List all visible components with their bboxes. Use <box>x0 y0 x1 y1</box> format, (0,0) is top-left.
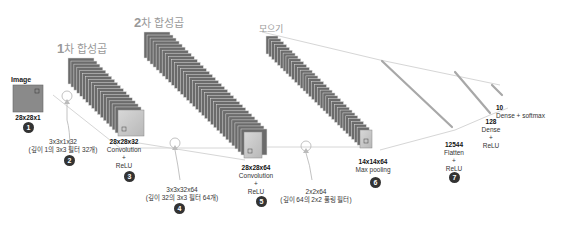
stage-text: 차 합성곱 <box>64 43 107 55</box>
filter1-label: 3x3x1x32 (깊이 1의 3x3 필터 32개) <box>18 138 108 154</box>
pool-shape: 14x14x64 <box>359 158 388 165</box>
flatten-size: 12544 <box>445 141 463 148</box>
dense-10-layer <box>492 85 502 95</box>
step-badge-4: 4 <box>174 203 185 214</box>
plus-sign: + <box>104 154 144 162</box>
dense128-size: 128 <box>486 118 497 125</box>
stage-text: 모으기 <box>259 24 283 34</box>
conv1-output-label: 28x28x32 Convolution + ReLU <box>104 138 144 170</box>
filter2-label: 3x3x32x64 (깊이 32의 3x3 필터 64개) <box>134 186 230 202</box>
pool-feature-stack <box>266 36 372 148</box>
pool-filter-shape: 2x2x64 <box>268 188 364 196</box>
step-badge-3: 3 <box>124 171 135 182</box>
image-title: Image <box>11 76 31 83</box>
filter1-shape: 3x3x1x32 <box>18 138 108 146</box>
step-badge-5: 5 <box>256 196 267 207</box>
conv1-shape: 28x28x32 <box>110 138 139 145</box>
step-badge-2: 2 <box>64 155 75 166</box>
flatten-op: Flatten <box>437 149 471 157</box>
dense128-op: Dense <box>476 126 506 134</box>
stage-text: 차 합성곱 <box>141 17 184 29</box>
dense10-op: Dense + softmax <box>496 112 545 120</box>
plus-sign: + <box>437 157 471 165</box>
filter2-shape: 3x3x32x64 <box>134 186 230 194</box>
plus-sign: + <box>236 180 276 188</box>
flatten-layer <box>382 61 452 127</box>
plus-sign: + <box>476 134 506 142</box>
conv2-op: Convolution <box>236 172 276 180</box>
pool-filter-label: 2x2x64 (깊이 64의 2x2 풀링 필터) <box>268 188 364 204</box>
dense10-label: 10 Dense + softmax <box>496 104 545 120</box>
input-image <box>13 85 43 112</box>
pool-filter-desc: (깊이 64의 2x2 풀링 필터) <box>268 196 364 204</box>
stage-title-pool: 모으기 <box>259 22 283 35</box>
conv2-shape: 28x28x64 <box>242 164 271 171</box>
dense-128-layer <box>455 72 490 113</box>
step-badge-1: 1 <box>23 122 34 133</box>
pool-output-label: 14x14x64 Max pooling <box>350 158 396 174</box>
stage-title-conv2: 2차 합성곱 <box>134 14 184 30</box>
dense10-size: 10 <box>496 104 503 111</box>
conv1-op: Convolution <box>104 146 144 154</box>
image-shape: 28x28x1 <box>10 114 46 122</box>
conv1-activation: ReLU <box>104 162 144 170</box>
step-badge-6: 6 <box>370 177 381 188</box>
stage-title-conv1: 1차 합성곱 <box>57 40 107 56</box>
conv2-feature-stack <box>144 32 267 158</box>
flatten-label: 12544 Flatten + ReLU <box>437 141 471 173</box>
pool-op: Max pooling <box>350 166 396 174</box>
conv1-feature-stack <box>68 58 144 136</box>
filter2-desc: (깊이 32의 3x3 필터 64개) <box>134 194 230 202</box>
dense128-activation: ReLU <box>476 142 506 150</box>
dense128-label: 128 Dense + ReLU <box>476 118 506 150</box>
filter1-desc: (깊이 1의 3x3 필터 32개) <box>18 146 108 154</box>
step-badge-7: 7 <box>449 172 460 183</box>
